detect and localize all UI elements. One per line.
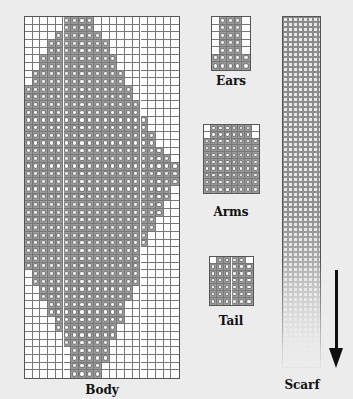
stitch-cell xyxy=(87,347,95,355)
stitch-cell xyxy=(40,40,48,48)
stitch-cell xyxy=(87,270,95,278)
stitch-cell xyxy=(148,78,156,86)
stitch-cell xyxy=(141,55,149,63)
stitch-cell xyxy=(204,186,211,193)
stitch-cell xyxy=(117,270,125,278)
stitch-cell xyxy=(227,62,235,70)
stitch-cell xyxy=(133,301,141,309)
stitch-cell xyxy=(71,232,79,240)
stitch-cell xyxy=(156,55,164,63)
stitch-cell xyxy=(25,347,33,355)
stitch-cell xyxy=(117,178,125,186)
stitch-cell xyxy=(164,201,172,209)
stitch-cell xyxy=(102,263,110,271)
stitch-cell xyxy=(148,140,156,148)
stitch-cell xyxy=(87,355,95,363)
stitch-cell xyxy=(232,186,239,193)
stitch-cell xyxy=(171,247,179,255)
stitch-cell xyxy=(171,155,179,163)
stitch-cell xyxy=(79,78,87,86)
stitch-cell xyxy=(64,86,72,94)
stitch-cell xyxy=(71,347,79,355)
stitch-cell xyxy=(252,186,259,193)
stitch-cell xyxy=(102,25,110,33)
stitch-cell xyxy=(33,294,41,302)
stitch-cell xyxy=(102,255,110,263)
stitch-cell xyxy=(164,48,172,56)
stitch-cell xyxy=(210,278,217,285)
stitch-cell xyxy=(110,32,118,40)
stitch-cell xyxy=(117,148,125,156)
stitch-cell xyxy=(25,309,33,317)
stitch-cell xyxy=(148,25,156,33)
stitch-cell xyxy=(48,263,56,271)
stitch-cell xyxy=(156,232,164,240)
stitch-cell xyxy=(141,125,149,133)
stitch-cell xyxy=(252,173,259,180)
stitch-cell xyxy=(40,155,48,163)
stitch-cell xyxy=(156,286,164,294)
stitch-cell xyxy=(102,32,110,40)
stitch-cell xyxy=(33,317,41,325)
stitch-cell xyxy=(71,209,79,217)
stitch-cell xyxy=(64,94,72,102)
stitch-cell xyxy=(33,163,41,171)
stitch-cell xyxy=(71,324,79,332)
stitch-cell xyxy=(79,117,87,125)
stitch-cell xyxy=(171,332,179,340)
stitch-cell xyxy=(33,209,41,217)
body-chart xyxy=(24,16,180,379)
stitch-cell xyxy=(102,125,110,133)
stitch-cell xyxy=(110,301,118,309)
stitch-cell xyxy=(102,324,110,332)
stitch-cell xyxy=(125,294,133,302)
stitch-cell xyxy=(133,263,141,271)
stitch-cell xyxy=(148,86,156,94)
stitch-cell xyxy=(48,155,56,163)
stitch-cell xyxy=(133,163,141,171)
stitch-cell xyxy=(156,171,164,179)
stitch-cell xyxy=(125,171,133,179)
stitch-cell xyxy=(102,55,110,63)
tail-label: Tail xyxy=(201,314,261,328)
stitch-cell xyxy=(25,217,33,225)
stitch-cell xyxy=(156,140,164,148)
stitch-cell xyxy=(148,48,156,56)
stitch-cell xyxy=(94,71,102,79)
stitch-cell xyxy=(117,40,125,48)
stitch-cell xyxy=(148,332,156,340)
stitch-cell xyxy=(87,301,95,309)
stitch-cell xyxy=(48,171,56,179)
stitch-cell xyxy=(148,255,156,263)
stitch-cell xyxy=(125,40,133,48)
stitch-cell xyxy=(71,109,79,117)
stitch-cell xyxy=(94,101,102,109)
stitch-cell xyxy=(110,155,118,163)
stitch-cell xyxy=(204,173,211,180)
stitch-cell xyxy=(48,194,56,202)
stitch-cell xyxy=(94,324,102,332)
stitch-cell xyxy=(148,301,156,309)
stitch-cell xyxy=(141,370,149,378)
stitch-cell xyxy=(171,40,179,48)
stitch-cell xyxy=(87,209,95,217)
stitch-cell xyxy=(33,94,41,102)
stitch-cell xyxy=(48,25,56,33)
stitch-cell xyxy=(94,25,102,33)
stitch-cell xyxy=(64,55,72,63)
stitch-cell xyxy=(141,40,149,48)
stitch-cell xyxy=(164,17,172,25)
stitch-cell xyxy=(232,291,239,298)
stitch-cell xyxy=(141,101,149,109)
stitch-cell xyxy=(40,217,48,225)
stitch-cell xyxy=(56,155,64,163)
stitch-cell xyxy=(117,247,125,255)
stitch-cell xyxy=(56,340,64,348)
stitch-cell xyxy=(110,171,118,179)
stitch-cell xyxy=(164,132,172,140)
stitch-cell xyxy=(56,286,64,294)
stitch-cell xyxy=(210,264,217,271)
stitch-cell xyxy=(204,132,211,139)
stitch-cell xyxy=(133,63,141,71)
stitch-cell xyxy=(48,240,56,248)
